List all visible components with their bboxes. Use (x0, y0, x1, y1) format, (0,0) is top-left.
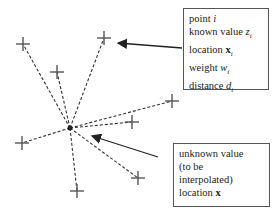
distance-line (70, 101, 172, 128)
label-weight: weight wi (189, 61, 263, 79)
label-interpolated: interpolated) (179, 173, 264, 186)
label-point-i: point i (189, 12, 263, 25)
distance-line (23, 44, 70, 128)
known-point-label-box: point i known value zi location xi weigh… (183, 8, 269, 90)
pointer-arrow (118, 43, 182, 48)
distance-line (57, 72, 70, 128)
pointer-arrow (92, 136, 158, 157)
distance-line (70, 128, 138, 178)
distance-line (70, 128, 77, 191)
unknown-point-marker (68, 126, 73, 131)
label-to-be: (to be (179, 160, 264, 173)
label-location-xi: location xi (189, 43, 263, 61)
label-distance: distance di (189, 79, 263, 97)
unknown-point-label-box: unknown value (to be interpolated) locat… (173, 143, 270, 207)
distance-line (70, 38, 104, 128)
idw-diagram: point i known value zi location xi weigh… (0, 0, 280, 214)
label-known-value: known value zi (189, 25, 263, 43)
label-unknown-value: unknown value (179, 147, 264, 160)
distance-line (70, 122, 132, 128)
label-location-x: location x (179, 186, 264, 199)
distance-line (22, 128, 70, 143)
